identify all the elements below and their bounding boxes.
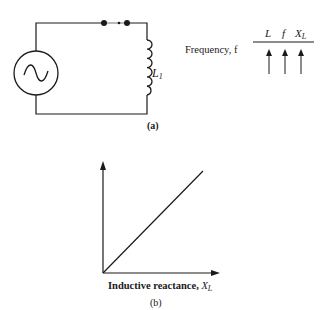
circuit-diagram: [36, 23, 147, 114]
switch-icon: [101, 20, 130, 26]
header-xl: XL: [295, 27, 306, 41]
diagram-canvas: [0, 0, 330, 310]
x-axis-label: Inductive reactance, XL: [108, 280, 212, 293]
header-f: f: [282, 27, 285, 39]
inductor-label: L1: [152, 66, 163, 81]
caption-b: (b): [150, 297, 162, 308]
caption-a: (a): [147, 120, 159, 131]
relation-arrows: [253, 42, 314, 74]
frequency-label: Frequency, f: [185, 44, 237, 55]
ac-source-icon: [14, 51, 58, 95]
linear-series-line: [103, 171, 203, 273]
header-l: L: [265, 27, 271, 39]
chart-axes: [100, 161, 220, 276]
